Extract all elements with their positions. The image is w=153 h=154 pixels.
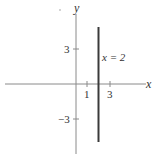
- y-tick-label-3: 3: [64, 43, 70, 55]
- x-tick-label-3: 3: [107, 88, 113, 100]
- x-axis-label: x: [145, 77, 152, 91]
- y-tick-label-neg3: −3: [58, 113, 70, 125]
- x-tick-label-1: 1: [84, 88, 90, 100]
- coordinate-plane: y x 1 3 3 −3 x = 2: [0, 0, 153, 154]
- stray-dot: [59, 9, 60, 10]
- line-label-x-equals-2: x = 2: [101, 51, 126, 63]
- y-axis-label: y: [73, 1, 80, 15]
